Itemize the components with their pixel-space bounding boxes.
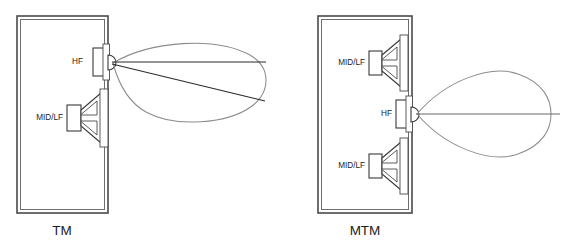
diagram-canvas: HF MID/LF TM bbox=[0, 0, 566, 247]
woofer-magnet bbox=[369, 51, 382, 75]
woofer-mount-flange bbox=[400, 35, 408, 91]
woofer-magnet bbox=[369, 154, 382, 178]
caption-tm: TM bbox=[52, 223, 72, 238]
label-hf-tm: HF bbox=[72, 57, 83, 66]
speaker-lobe-diagram: HF MID/LF TM bbox=[0, 0, 566, 247]
woofer-magnet bbox=[67, 105, 81, 131]
tweeter-faceplate bbox=[396, 100, 407, 128]
label-hf-mtm: HF bbox=[381, 109, 392, 118]
woofer-mount-flange bbox=[100, 89, 108, 147]
label-midlf-lower-mtm: MID/LF bbox=[338, 161, 365, 170]
label-midlf-tm: MID/LF bbox=[36, 113, 63, 122]
caption-mtm: MTM bbox=[350, 223, 381, 238]
label-midlf-upper-mtm: MID/LF bbox=[338, 58, 365, 67]
woofer-mount-flange bbox=[400, 138, 408, 194]
tweeter-faceplate bbox=[93, 48, 104, 76]
